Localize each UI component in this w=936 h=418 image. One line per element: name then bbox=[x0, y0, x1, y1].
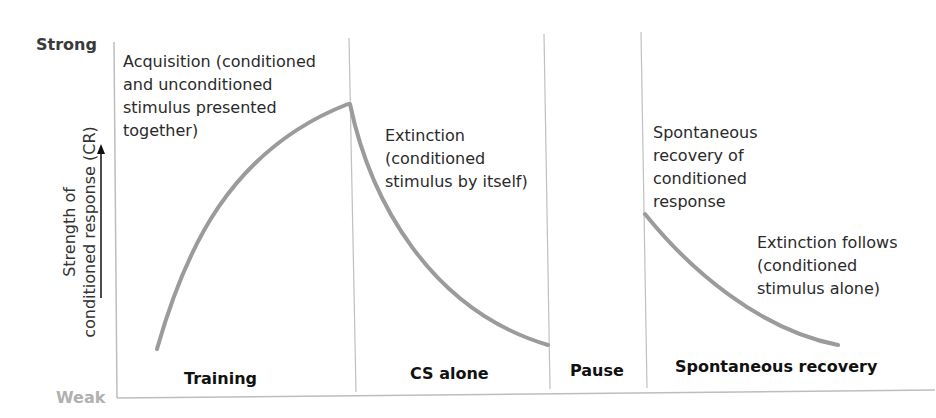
extinction-annotation: Extinction (conditioned stimulus by itse… bbox=[385, 124, 528, 193]
extinction-follows-annotation: Extinction follows (conditioned stimulus… bbox=[757, 231, 898, 300]
annotation-line: stimulus alone) bbox=[757, 277, 898, 300]
divider-cs-pause bbox=[544, 34, 550, 389]
phase-label-cs-alone: CS alone bbox=[410, 364, 489, 383]
phase-label-spontaneous-recovery: Spontaneous recovery bbox=[675, 357, 877, 376]
y-axis-bottom-label: Weak bbox=[56, 388, 105, 407]
annotation-line: conditioned bbox=[653, 167, 758, 190]
annotation-line: Extinction bbox=[385, 124, 528, 147]
annotation-line: stimulus presented bbox=[123, 96, 316, 119]
phase-label-pause: Pause bbox=[570, 361, 624, 380]
annotation-line: recovery of bbox=[653, 144, 758, 167]
phase-label-training: Training bbox=[184, 369, 257, 388]
y-axis-title-line2: conditioned response (CR) bbox=[80, 122, 100, 342]
annotation-line: together) bbox=[123, 119, 316, 142]
annotation-line: stimulus by itself) bbox=[385, 170, 528, 193]
annotation-line: (conditioned bbox=[385, 147, 528, 170]
divider-training-cs bbox=[349, 38, 356, 392]
y-axis-title-line1: Strength of bbox=[60, 122, 80, 342]
annotation-line: and unconditioned bbox=[123, 73, 316, 96]
y-axis-top-label: Strong bbox=[36, 35, 97, 54]
divider-pause-recovery bbox=[641, 32, 647, 388]
x-axis bbox=[117, 390, 935, 398]
annotation-line: Extinction follows bbox=[757, 231, 898, 254]
annotation-line: (conditioned bbox=[757, 254, 898, 277]
annotation-line: Spontaneous bbox=[653, 121, 758, 144]
spontaneous-recovery-annotation: Spontaneous recovery of conditioned resp… bbox=[653, 121, 758, 213]
acquisition-annotation: Acquisition (conditioned and uncondition… bbox=[123, 50, 316, 142]
y-axis-title: Strength of conditioned response (CR) bbox=[60, 122, 100, 342]
y-axis bbox=[114, 42, 117, 398]
annotation-line: Acquisition (conditioned bbox=[123, 50, 316, 73]
annotation-line: response bbox=[653, 190, 758, 213]
